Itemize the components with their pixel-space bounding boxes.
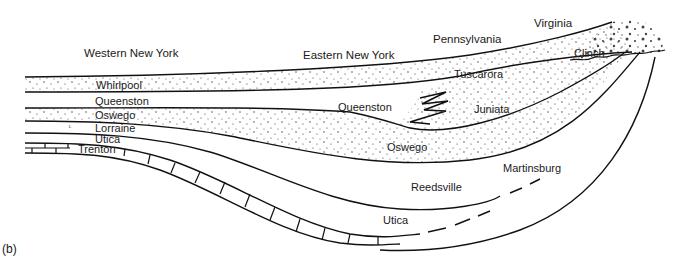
unit-label-queenston-east: Queenston <box>338 101 392 113</box>
utica-dash-3 <box>478 211 490 216</box>
panel-label: (b) <box>2 243 17 255</box>
unit-label-oswego-west: Oswego <box>95 109 135 121</box>
utica-dash-1 <box>428 228 446 232</box>
region-label-eastern-new-york: Eastern New York <box>303 49 394 61</box>
region-label-virginia: Virginia <box>534 17 572 29</box>
stratigraphic-cross-section: ᴸ Western New York Eastern New York Penn… <box>0 0 680 265</box>
utica-dash-2 <box>455 219 470 225</box>
reedsville-dash-2 <box>530 179 540 184</box>
unit-label-tuscarora: Tuscarora <box>454 68 503 80</box>
reedsville-dash-1 <box>510 188 522 193</box>
unit-label-utica-east: Utica <box>383 214 408 226</box>
region-label-western-new-york: Western New York <box>84 47 178 59</box>
region-label-pennsylvania: Pennsylvania <box>433 33 501 45</box>
unit-label-reedsville: Reedsville <box>411 181 462 193</box>
unit-label-martinsburg: Martinsburg <box>503 162 561 174</box>
unit-label-trenton: Trenton <box>78 143 116 155</box>
unit-label-juniata: Juniata <box>474 103 509 115</box>
svg-text:ᴸ: ᴸ <box>69 124 72 131</box>
unit-label-oswego-east: Oswego <box>387 141 427 153</box>
unit-label-queenston-west: Queenston <box>95 95 149 107</box>
unit-label-clinch: Clinch <box>574 47 605 59</box>
unit-label-whirlpool: Whirlpool <box>96 79 142 91</box>
